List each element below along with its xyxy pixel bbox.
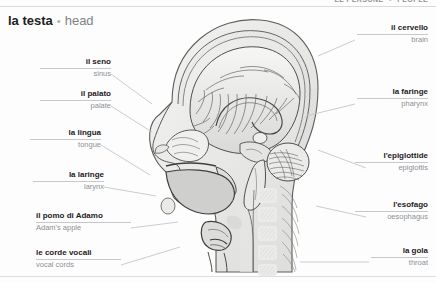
label-sinus-english: sinus [40,69,111,78]
label-tongue-italian: la lingua [30,129,101,140]
label-throat-italian: la gola [371,247,428,258]
label-epiglottis-italian: l'epiglottide [355,152,428,163]
running-header-right: PEOPLE [397,0,428,3]
header-divider [0,6,436,7]
running-header-left: LE PERSONE [335,0,384,3]
label-palate-italian: il palato [40,90,111,101]
head-anatomy-illustration [120,10,325,278]
label-vocal-cords-italian: le corde vocali [36,249,121,260]
page-title-italian: la testa [8,13,53,28]
dictionary-page: LE PERSONE • PEOPLE la testa•head [0,0,436,283]
page-title-separator: • [53,15,65,27]
label-larynx[interactable]: la laringe larynx [33,171,104,191]
page-bottom-divider [0,276,436,277]
label-vocal-cords[interactable]: le corde vocali vocal cords [36,249,121,269]
label-throat[interactable]: la gola throat [371,247,428,267]
label-adams-apple-italian: il pomo di Adamo [36,212,131,223]
label-throat-english: throat [371,258,428,267]
label-sinus[interactable]: il seno sinus [40,58,111,78]
label-tongue-english: tongue [30,140,101,149]
label-palate-english: palate [40,101,111,110]
label-adams-apple[interactable]: il pomo di Adamo Adam's apple [36,212,131,232]
running-header-separator: • [386,0,395,3]
label-larynx-english: larynx [33,182,104,191]
label-epiglottis-english: epiglottis [355,163,428,172]
label-oesophagus-english: oesophagus [355,212,428,221]
label-brain[interactable]: il cervello brain [357,24,428,44]
label-pharynx-english: pharynx [357,99,428,108]
label-tongue[interactable]: la lingua tongue [30,129,101,149]
label-vocal-cords-english: vocal cords [36,260,121,269]
running-header: LE PERSONE • PEOPLE [335,0,429,3]
label-sinus-italian: il seno [40,58,111,69]
label-epiglottis[interactable]: l'epiglottide epiglottis [355,152,428,172]
label-pharynx[interactable]: la faringe pharynx [357,88,428,108]
label-oesophagus[interactable]: l'esofago oesophagus [355,201,428,221]
label-pharynx-italian: la faringe [357,88,428,99]
label-brain-english: brain [357,35,428,44]
label-adams-apple-english: Adam's apple [36,223,131,232]
page-title: la testa•head [8,13,94,28]
label-oesophagus-italian: l'esofago [355,201,428,212]
page-title-english: head [65,13,94,28]
label-palate[interactable]: il palato palate [40,90,111,110]
label-larynx-italian: la laringe [33,171,104,182]
label-brain-italian: il cervello [357,24,428,35]
